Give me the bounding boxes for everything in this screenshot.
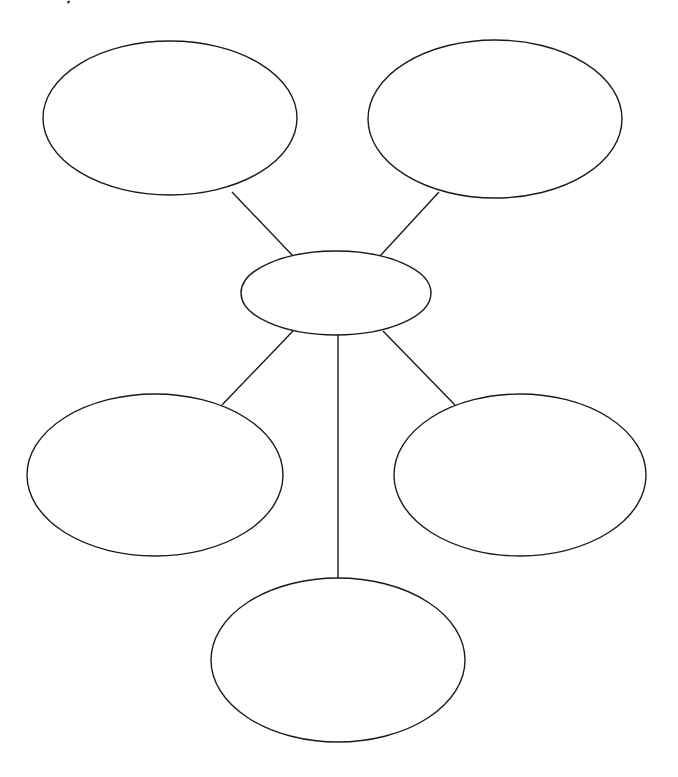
ellipse-bottom[interactable] xyxy=(211,578,465,742)
bubble-top-left[interactable] xyxy=(43,41,297,195)
connector-center-to-top-right xyxy=(380,192,439,256)
connector-center-to-middle-left xyxy=(222,331,293,405)
ellipse-top-right[interactable] xyxy=(368,40,622,198)
bubble-middle-right[interactable] xyxy=(394,394,646,556)
ellipse-middle-right[interactable] xyxy=(394,394,646,556)
connector-center-to-middle-right xyxy=(383,331,455,405)
connector-center-to-top-left xyxy=(232,192,293,256)
ellipse-center[interactable] xyxy=(241,251,431,335)
bubble-top-right[interactable] xyxy=(368,40,622,198)
bubble-bottom[interactable] xyxy=(211,578,465,742)
bubble-center[interactable] xyxy=(241,251,431,335)
bubble-map-diagram xyxy=(0,0,678,777)
bubble-middle-left[interactable] xyxy=(27,394,283,556)
bubble-nodes xyxy=(27,40,646,742)
ellipse-middle-left[interactable] xyxy=(27,394,283,556)
ellipse-top-left[interactable] xyxy=(43,41,297,195)
